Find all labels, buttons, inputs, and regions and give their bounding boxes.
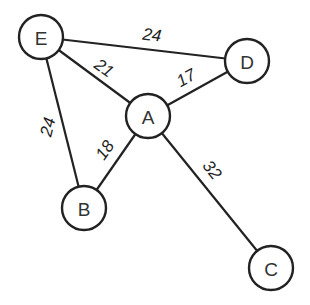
edge-weight-e-b: 24 [36,116,59,140]
edge-a-c [148,116,271,268]
node-d-label: D [240,52,254,73]
node-a-label: A [142,107,155,128]
node-c: C [249,246,293,290]
node-b: B [62,186,106,230]
edge-weight-a-c: 32 [199,157,226,184]
edge-weight-e-d: 24 [141,24,163,45]
node-d: D [225,39,269,83]
weighted-graph-diagram: 24 21 17 24 18 32 E D A B C [0,0,310,305]
node-a: A [126,94,170,138]
node-e: E [19,15,63,59]
edge-weight-b-a: 18 [92,136,119,163]
node-e-label: E [35,28,48,49]
node-c-label: C [264,259,278,280]
node-b-label: B [78,199,91,220]
nodes-layer: E D A B C [19,15,293,290]
edge-weight-a-d: 17 [173,65,199,91]
